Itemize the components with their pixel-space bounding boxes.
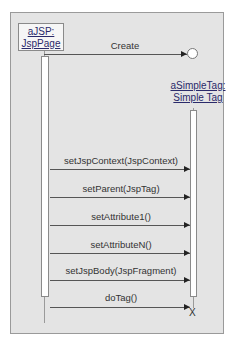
object-ajsp-name: aJSP: (28, 26, 55, 37)
object-asimpletag-type: Simple Tag (173, 92, 222, 103)
object-ajsp-label: aJSP: JspPage (19, 26, 63, 50)
object-asimpletag-label: aSimpleTag: Simple Tag (167, 80, 229, 104)
message-arrow-2 (50, 197, 190, 198)
object-ajsp: aJSP: JspPage (18, 23, 64, 51)
create-message-arrow (44, 54, 187, 55)
message-arrow-1 (50, 169, 190, 170)
message-label-4: setAttributeN() (48, 239, 194, 250)
message-label-1: setJspContext(JspContext) (48, 155, 194, 166)
create-label: Create (85, 40, 165, 51)
message-arrow-6 (50, 307, 190, 308)
object-ajsp-type: JspPage (22, 38, 61, 49)
object-creation-circle (187, 48, 198, 59)
message-label-5: setJspBody(JspFragment) (48, 265, 194, 276)
message-arrow-4 (50, 253, 190, 254)
message-label-6: doTag() (48, 292, 194, 303)
destroy-marker: X (189, 307, 196, 318)
activation-ajsp (41, 56, 49, 297)
message-arrow-3 (50, 225, 190, 226)
message-arrow-5 (50, 280, 190, 281)
message-label-2: setParent(JspTag) (48, 183, 194, 194)
object-asimpletag-name: aSimpleTag: (170, 80, 225, 91)
message-label-3: setAttribute1() (48, 211, 194, 222)
